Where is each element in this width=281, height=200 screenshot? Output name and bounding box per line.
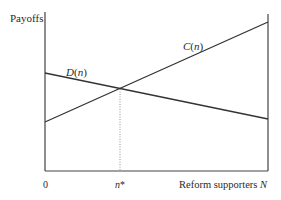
equilibrium-label: n* xyxy=(115,179,125,190)
y-axis-label: Payoffs xyxy=(10,12,43,24)
origin-label: 0 xyxy=(43,179,48,190)
curve-d xyxy=(45,73,268,119)
curve-c-label: C(n) xyxy=(183,40,204,53)
payoff-diagram: Payoffs D(n) C(n) 0 n* Reform supporters… xyxy=(0,0,281,200)
x-axis-label: Reform supporters N xyxy=(179,179,268,190)
curve-d-label: D(n) xyxy=(65,66,87,79)
